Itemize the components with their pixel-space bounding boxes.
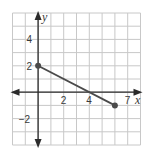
grid-lines	[13, 13, 141, 145]
y-axis-up-arrow-icon	[35, 11, 42, 20]
x-tick-label: 2	[61, 95, 67, 106]
endpoint-dot	[35, 63, 41, 69]
plot-area: 24742−2xy	[0, 0, 149, 158]
y-axis-down-arrow-icon	[35, 139, 42, 148]
x-axis-label: x	[134, 93, 141, 107]
y-tick-label: 4	[27, 34, 33, 45]
coordinate-plane: 24742−2xy	[0, 0, 149, 158]
y-tick-label: −2	[19, 114, 31, 125]
y-tick-label: 2	[27, 61, 33, 72]
y-axis-label: y	[41, 10, 48, 24]
x-tick-label: 4	[86, 95, 92, 106]
x-axis-left-arrow-icon	[11, 89, 20, 96]
endpoint-dot	[112, 102, 118, 108]
x-tick-label: 7	[125, 95, 131, 106]
